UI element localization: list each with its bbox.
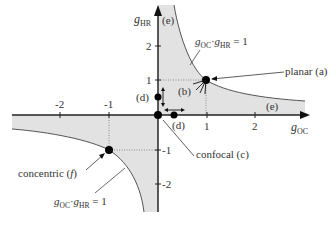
concentric-point [105, 146, 113, 154]
x-tick-label: -2 [55, 98, 64, 110]
leader-line [95, 168, 125, 193]
d-label-vertical: (d) [136, 91, 149, 104]
curve-equation-bottom: gOC·gHR = 1 [54, 195, 107, 210]
confocal-point [154, 111, 162, 119]
x-axis-label: gOC [291, 120, 308, 136]
stability-diagram: -2 -1 1 2 2 1 -1 -2 gOC gHR gOC·gHR = 1 … [0, 0, 336, 227]
e-label-right: (e) [266, 100, 279, 113]
leader-line [190, 50, 200, 65]
concentric-label: concentric (f) [18, 167, 77, 180]
confocal-label: confocal (c) [196, 148, 249, 161]
curve-equation-top: gOC·gHR = 1 [195, 35, 248, 50]
y-tick-label: -1 [162, 144, 171, 156]
b-label: (b) [178, 85, 191, 98]
stable-region-q3 [12, 115, 158, 212]
e-label-top: (e) [162, 14, 175, 27]
d-label-horizontal: (d) [172, 119, 185, 132]
y-tick-label: 2 [146, 40, 152, 52]
arrowhead-icon [211, 76, 217, 81]
d-point-vertical [155, 94, 162, 101]
x-tick-label: 1 [204, 120, 210, 132]
leader-line [212, 72, 284, 79]
x-tick-label: 2 [252, 120, 258, 132]
y-axis-label: gHR [134, 12, 152, 28]
planar-label: planar (a) [285, 65, 328, 78]
x-tick-label: -1 [104, 98, 113, 110]
stable-region-q1 [158, 5, 305, 115]
d-point-horizontal [171, 112, 178, 119]
y-tick-label: 1 [146, 74, 152, 86]
y-tick-label: -2 [162, 178, 171, 190]
